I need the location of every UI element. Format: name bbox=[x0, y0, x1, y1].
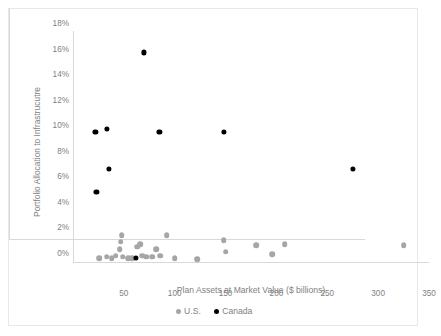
legend-label: U.S. bbox=[184, 306, 201, 316]
data-point-us bbox=[223, 249, 229, 255]
legend-item-canada[interactable]: Canada bbox=[214, 306, 253, 316]
data-point-canada bbox=[142, 50, 147, 55]
data-point-us bbox=[253, 243, 259, 249]
data-point-us bbox=[119, 232, 125, 238]
chart-container: 50100150200250300350 0%2%4%6%8%10%12%14%… bbox=[8, 8, 418, 326]
data-point-canada bbox=[350, 166, 355, 171]
data-point-canada bbox=[94, 189, 99, 194]
data-point-canada bbox=[104, 127, 109, 132]
data-point-us bbox=[401, 243, 407, 249]
data-point-us bbox=[221, 237, 227, 243]
data-point-us bbox=[150, 254, 156, 260]
data-point-us bbox=[164, 232, 170, 238]
data-point-us bbox=[143, 254, 149, 260]
y-axis-label: Portfolio Allocation to Infrastrucutre bbox=[32, 32, 42, 272]
data-point-us bbox=[194, 257, 200, 263]
data-point-canada bbox=[133, 256, 138, 261]
data-point-us bbox=[113, 253, 119, 259]
data-point-us bbox=[172, 255, 178, 261]
y-axis-line bbox=[9, 8, 10, 240]
plot-area: 50100150200250300350 bbox=[73, 32, 429, 262]
data-point-canada bbox=[93, 129, 98, 134]
data-point-canada bbox=[106, 166, 111, 171]
legend-item-us[interactable]: U.S. bbox=[176, 306, 201, 316]
chart-legend: U.S.Canada bbox=[0, 306, 428, 316]
data-point-canada bbox=[221, 129, 226, 134]
data-point-us bbox=[118, 239, 124, 245]
x-axis-rule bbox=[73, 262, 429, 263]
data-point-us bbox=[270, 252, 276, 258]
y-tick-label: 18% bbox=[35, 20, 69, 28]
legend-label: Canada bbox=[222, 306, 252, 316]
legend-marker-icon bbox=[214, 309, 219, 314]
y-axis-rule bbox=[73, 31, 74, 263]
legend-marker-icon bbox=[176, 309, 181, 314]
data-point-canada bbox=[157, 129, 162, 134]
x-axis-label: Plan Assets at Market Value ($ billions) bbox=[73, 285, 429, 295]
data-point-us bbox=[97, 255, 103, 261]
data-point-us bbox=[282, 241, 288, 247]
data-point-us bbox=[158, 253, 164, 259]
data-point-us bbox=[117, 246, 123, 252]
data-point-us bbox=[154, 246, 160, 252]
data-point-us bbox=[137, 241, 143, 247]
